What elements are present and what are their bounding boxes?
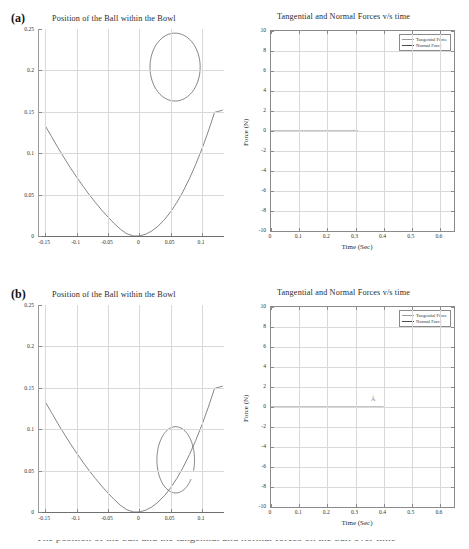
gridline-horizontal: [271, 427, 454, 428]
y-tick-label: 0.25: [12, 302, 34, 308]
y-tick-mark: [451, 447, 454, 448]
y-tick-label: 0.15: [12, 385, 34, 391]
x-tick-label: 0.3: [351, 509, 358, 515]
gridline-horizontal: [271, 211, 454, 212]
y-tick-mark: [271, 367, 274, 368]
gridline-horizontal: [39, 153, 224, 154]
y-tick-mark: [451, 171, 454, 172]
gridline-horizontal: [271, 191, 454, 192]
plot-area-b-forces: Å Tangential Force Normal Force: [270, 306, 455, 508]
x-tick-label: 0.4: [379, 233, 386, 239]
y-tick-mark: [451, 91, 454, 92]
gridline-horizontal: [39, 70, 224, 71]
y-tick-label: -6: [244, 187, 266, 193]
curves-b-position: [39, 305, 225, 513]
y-tick-mark: [451, 367, 454, 368]
gridline-vertical: [171, 29, 172, 236]
y-tick-mark: [451, 31, 454, 32]
y-tick-label: 0: [244, 403, 266, 409]
gridline-horizontal: [271, 131, 454, 132]
y-tick-mark: [451, 507, 454, 508]
x-tick-mark: [171, 509, 172, 512]
y-tick-mark: [451, 347, 454, 348]
y-tick-mark: [39, 29, 42, 30]
y-tick-label: -8: [244, 207, 266, 213]
y-tick-mark: [271, 31, 274, 32]
y-tick-mark: [271, 447, 274, 448]
gridline-horizontal: [271, 91, 454, 92]
x-tick-mark: [356, 504, 357, 507]
gridline-horizontal: [271, 407, 454, 408]
gridline-horizontal: [271, 387, 454, 388]
y-tick-label: 4: [244, 363, 266, 369]
panel-a-position-chart: (a) Position of the Ball within the Bowl…: [0, 0, 235, 272]
y-tick-mark: [451, 151, 454, 152]
y-tick-label: 6: [244, 343, 266, 349]
chart-title-b-position: Position of the Ball within the Bowl: [52, 290, 176, 299]
y-tick-mark: [39, 305, 42, 306]
chart-title-b-forces: Tangential and Normal Forces v/s time: [277, 288, 410, 297]
x-tick-mark: [384, 31, 385, 34]
y-tick-mark: [451, 211, 454, 212]
gridline-horizontal: [39, 388, 224, 389]
x-tick-label: 0: [269, 233, 272, 239]
gridline-horizontal: [271, 111, 454, 112]
y-tick-mark: [451, 307, 454, 308]
y-tick-label: 0: [12, 509, 34, 515]
x-tick-label: 0.05: [165, 239, 175, 245]
curves-a-position: [39, 29, 225, 237]
y-tick-mark: [451, 387, 454, 388]
y-tick-label: 0.2: [12, 343, 34, 349]
chart-title-a-position: Position of the Ball within the Bowl: [52, 14, 176, 23]
curve-ball-a: [150, 33, 200, 101]
y-tick-mark: [451, 131, 454, 132]
y-tick-label: -10: [244, 503, 266, 509]
x-tick-mark: [440, 307, 441, 310]
y-tick-label: -4: [244, 443, 266, 449]
y-tick-mark: [451, 71, 454, 72]
gridline-vertical: [45, 305, 46, 512]
x-axis-title-b-forces: Time (Sec): [342, 519, 373, 527]
y-tick-mark: [271, 427, 274, 428]
gridline-horizontal: [271, 447, 454, 448]
gridline-vertical: [45, 29, 46, 236]
x-tick-label: 0.1: [295, 509, 302, 515]
y-tick-label: 0: [244, 127, 266, 133]
gridline-vertical: [139, 305, 140, 512]
x-tick-mark: [412, 307, 413, 310]
gridline-vertical: [108, 305, 109, 512]
y-tick-mark: [39, 429, 42, 430]
legend-b-forces[interactable]: Tangential Force Normal Force: [399, 310, 451, 327]
y-tick-label: 4: [244, 87, 266, 93]
stray-glyph-artifact: Å: [371, 396, 375, 402]
x-tick-label: 0.6: [435, 233, 442, 239]
gridline-horizontal: [271, 367, 454, 368]
x-tick-mark: [412, 31, 413, 34]
x-tick-mark: [139, 509, 140, 512]
x-tick-label: 0.4: [379, 509, 386, 515]
y-tick-label: 0.25: [12, 26, 34, 32]
y-tick-mark: [39, 70, 42, 71]
figure-caption-text: The position of the ball and the tangent…: [36, 540, 396, 543]
legend-a-forces[interactable]: Tangential Force Normal Force: [399, 34, 451, 51]
y-tick-label: -4: [244, 167, 266, 173]
gridline-vertical: [108, 29, 109, 236]
x-tick-label: 0.3: [351, 233, 358, 239]
x-tick-label: -0.1: [71, 239, 80, 245]
figure-page: (a) Position of the Ball within the Bowl…: [0, 0, 469, 549]
x-tick-label: 0.1: [198, 239, 205, 245]
x-tick-mark: [440, 504, 441, 507]
plot-area-a-position: [38, 29, 224, 237]
y-tick-mark: [271, 507, 274, 508]
y-tick-mark: [39, 112, 42, 113]
plot-area-b-position: [38, 305, 224, 513]
gridline-horizontal: [39, 346, 224, 347]
y-tick-label: 0.1: [12, 150, 34, 156]
y-tick-label: 0.15: [12, 109, 34, 115]
x-tick-label: -0.1: [71, 515, 80, 521]
x-tick-mark: [327, 504, 328, 507]
gridline-horizontal: [39, 195, 224, 196]
x-tick-mark: [77, 509, 78, 512]
y-tick-label: 2: [244, 383, 266, 389]
gridline-horizontal: [39, 112, 224, 113]
